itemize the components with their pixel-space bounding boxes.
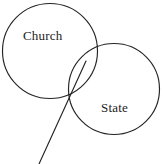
circle-label-church: Church [23,29,62,42]
divider-line [39,61,86,164]
venn-diagram: Church State [0,0,164,164]
circle-label-state: State [101,101,128,114]
circle-state [69,44,160,135]
circle-church [3,4,98,99]
venn-diagram-graphic [0,0,164,164]
